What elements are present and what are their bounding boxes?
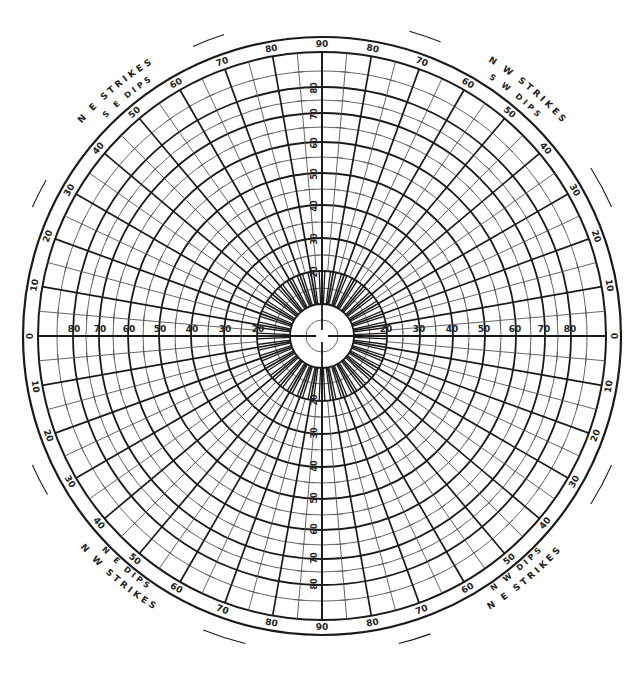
grid-tick xyxy=(560,443,564,452)
grid-tick xyxy=(307,222,317,223)
perimeter-label: 80 xyxy=(264,42,278,54)
grid-tick xyxy=(304,189,314,190)
grid-tick xyxy=(296,100,306,101)
grid-tick xyxy=(173,229,179,237)
grid-tick xyxy=(242,172,251,176)
axis-label-south: 70 xyxy=(310,552,319,564)
axis-label-west: 60 xyxy=(123,324,136,334)
grid-tick xyxy=(143,347,144,357)
grid-tick xyxy=(417,548,426,552)
grid-tick xyxy=(218,548,227,552)
grid-tick xyxy=(307,449,317,450)
grid-tick xyxy=(299,544,309,545)
axis-label-north: 50 xyxy=(310,168,319,180)
corner-dash xyxy=(32,180,46,207)
grid-tick xyxy=(215,187,223,193)
grid-tick xyxy=(255,201,264,205)
perimeter-label: 90 xyxy=(316,622,329,632)
spoke xyxy=(375,373,554,499)
grid-tick xyxy=(253,240,261,246)
grid-tick xyxy=(530,313,531,323)
grid-tick xyxy=(429,94,438,98)
grid-tick xyxy=(366,437,375,441)
axis-label-east: 70 xyxy=(538,324,551,334)
axis-label-west: 70 xyxy=(94,324,107,334)
grid-tick xyxy=(482,256,486,265)
spoke xyxy=(385,262,597,319)
grid-tick xyxy=(310,416,320,417)
grid-tick xyxy=(364,399,372,405)
net-grid xyxy=(23,37,621,635)
grid-tick xyxy=(198,162,206,168)
perimeter-label: 0 xyxy=(25,333,35,339)
grid-tick xyxy=(402,338,403,348)
spoke xyxy=(76,352,294,478)
grid-tick xyxy=(208,341,209,351)
grid-tick xyxy=(296,571,306,572)
perimeter-label: 10 xyxy=(29,379,41,393)
spoke xyxy=(248,399,305,611)
grid-tick xyxy=(453,269,457,278)
grid-tick xyxy=(229,523,238,527)
grid-tick xyxy=(453,526,461,532)
grid-tick xyxy=(253,285,259,293)
grid-tick xyxy=(234,454,242,460)
grid-tick xyxy=(301,514,311,515)
grid-tick xyxy=(383,427,391,433)
grid-tick xyxy=(333,514,343,515)
grid-tick xyxy=(534,232,538,241)
grid-tick xyxy=(271,267,279,273)
grid-tick xyxy=(113,349,114,359)
grid-tick xyxy=(512,197,518,205)
perimeter-label: 10 xyxy=(604,278,616,292)
grid-tick xyxy=(383,240,391,246)
grid-tick xyxy=(366,231,375,235)
grid-tick xyxy=(536,484,542,492)
grid-tick xyxy=(470,116,478,122)
grid-tick xyxy=(226,397,232,405)
axis-label-north: 20 xyxy=(310,266,319,278)
inner-tick xyxy=(257,337,290,338)
spoke xyxy=(368,382,523,537)
grid-tick xyxy=(327,222,337,223)
grid-tick xyxy=(234,213,242,219)
spoke xyxy=(338,90,464,308)
inner-tick xyxy=(319,368,320,401)
grid-tick xyxy=(406,523,415,527)
corner-dash xyxy=(32,465,47,495)
grid-tick xyxy=(468,318,469,328)
grid-tick xyxy=(241,324,242,334)
grid-tick xyxy=(352,260,361,264)
grid-tick xyxy=(86,310,87,320)
grid-tick xyxy=(586,354,587,364)
axis-label-west: 20 xyxy=(252,324,265,334)
grid-tick xyxy=(130,243,134,252)
grid-tick xyxy=(148,452,154,460)
inner-tick xyxy=(354,337,387,338)
grid-tick xyxy=(413,267,419,275)
grid-tick xyxy=(534,431,538,440)
grid-tick xyxy=(229,144,238,148)
grid-tick xyxy=(440,248,446,256)
grid-tick xyxy=(106,431,110,440)
grid-tick xyxy=(246,297,250,306)
grid-tick xyxy=(58,354,59,364)
corner-dash xyxy=(409,31,440,42)
grid-tick xyxy=(333,157,343,158)
grid-tick xyxy=(402,213,410,219)
grid-tick xyxy=(453,394,457,403)
grid-tick xyxy=(158,407,162,416)
grid-tick xyxy=(330,189,340,190)
grid-tick xyxy=(158,256,162,265)
grid-tick xyxy=(80,219,84,228)
corner-dash xyxy=(203,630,245,644)
grid-tick xyxy=(218,120,227,124)
grid-tick xyxy=(557,352,558,362)
grid-tick xyxy=(217,380,221,389)
grid-tick xyxy=(80,443,84,452)
grid-tick xyxy=(393,496,402,500)
grid-tick xyxy=(271,399,279,405)
grid-tick xyxy=(417,120,426,124)
grid-tick xyxy=(435,321,436,331)
grid-tick xyxy=(423,283,427,292)
